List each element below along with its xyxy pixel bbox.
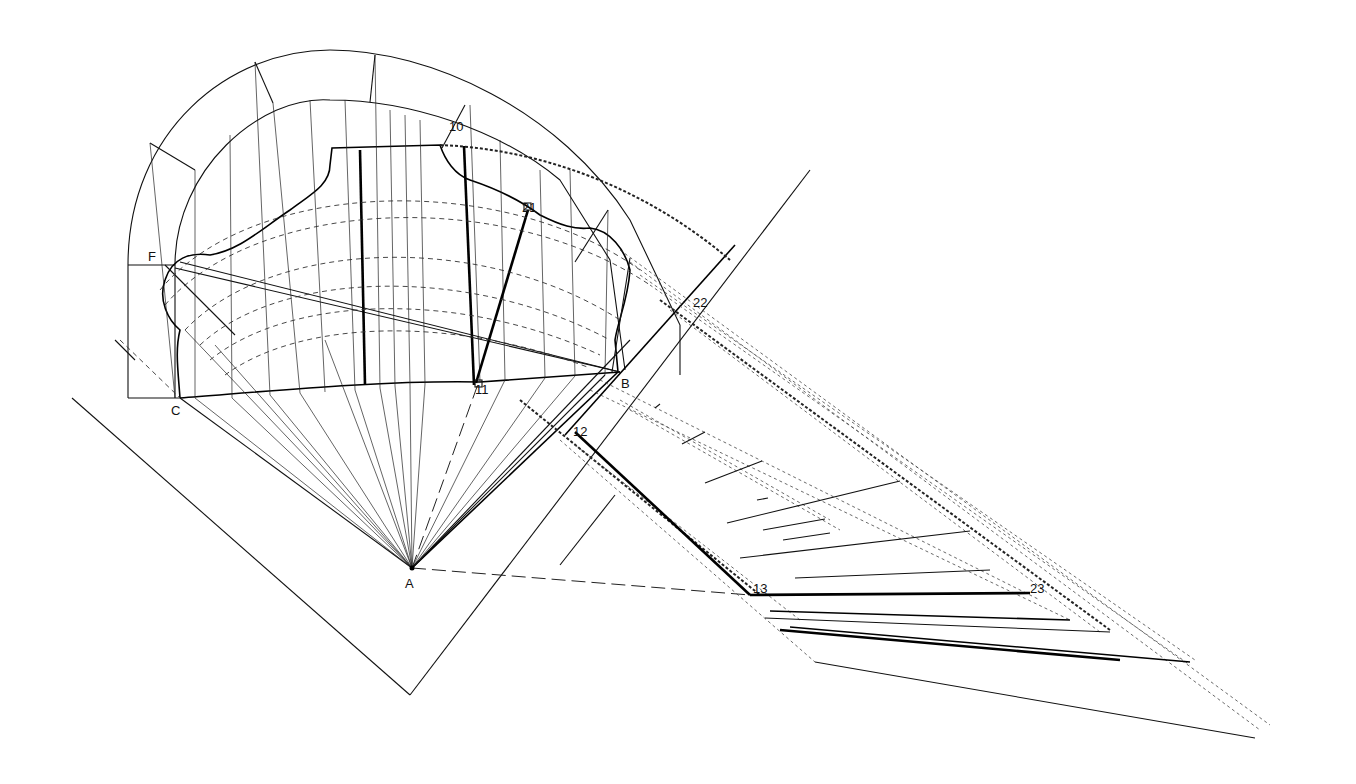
label-21: 21: [522, 200, 536, 215]
label-C: C: [171, 403, 180, 418]
label-11: 11: [475, 382, 489, 397]
development-lines: [655, 404, 1255, 738]
edge-12-13: [575, 432, 750, 595]
intrados-profile: [163, 145, 630, 398]
joint-lines: [165, 146, 630, 385]
label-A: A: [405, 576, 414, 591]
projection-dashes: [440, 145, 1270, 730]
diagram-svg: 10 21 F 22 B 11 C 12 A 13 23: [0, 0, 1356, 784]
label-12: 12: [573, 424, 587, 439]
construction-drawing: 10 21 F 22 B 11 C 12 A 13 23: [0, 0, 1356, 784]
point-labels: 10 21 F 22 B 11 C 12 A 13 23: [148, 119, 1044, 596]
radial-lines-from-A: [180, 330, 630, 568]
base-frame: [72, 170, 810, 695]
label-F: F: [148, 249, 156, 264]
label-23: 23: [1030, 581, 1044, 596]
label-10: 10: [449, 119, 463, 134]
impost-line: [128, 268, 620, 398]
label-22: 22: [693, 295, 707, 310]
vertical-projectors: [150, 55, 608, 398]
label-13: 13: [753, 581, 767, 596]
arch-extrados: [128, 50, 680, 398]
label-B: B: [621, 376, 630, 391]
